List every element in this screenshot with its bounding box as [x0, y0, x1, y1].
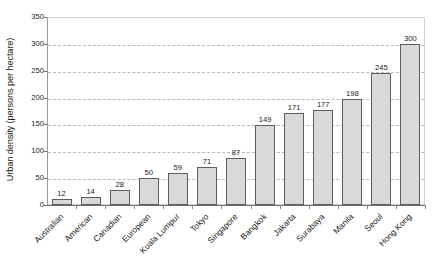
x-category-label: Australian	[0, 211, 65, 271]
bar-chart: Urban density (persons per hectare) 0501…	[0, 0, 439, 271]
x-axis-labels: AustralianAmericanCanadianEuropeanKuala …	[0, 0, 439, 271]
